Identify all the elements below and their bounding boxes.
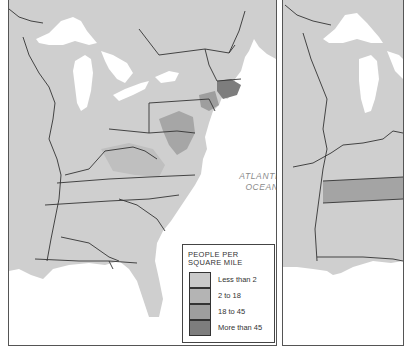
population-density-map-left: ATLANTIC OCEAN PEOPLE PER SQUARE MILE Le…: [8, 0, 277, 346]
legend-item: More than 45: [189, 320, 273, 336]
ocean-label-line2: OCEAN: [227, 182, 277, 193]
legend-title: PEOPLE PER SQUARE MILE: [188, 251, 243, 267]
ocean-label-line1: ATLANTIC: [227, 171, 277, 182]
legend: PEOPLE PER SQUARE MILE Less than 2 2 to …: [182, 244, 275, 343]
density-band-2-18: [323, 177, 403, 203]
legend-label: 18 to 45: [218, 307, 245, 316]
population-density-map-right: [282, 0, 404, 346]
legend-item: 18 to 45: [189, 304, 273, 320]
legend-swatch-more-than-45: [189, 320, 211, 336]
legend-swatch-2-to-18: [189, 288, 211, 304]
legend-item: 2 to 18: [189, 288, 273, 304]
legend-title-line2: SQUARE MILE: [188, 259, 243, 267]
legend-item: Less than 2: [189, 272, 273, 288]
legend-label: 2 to 18: [218, 291, 241, 300]
map-eastern-us-right: [283, 0, 403, 345]
ocean-label: ATLANTIC OCEAN: [227, 171, 277, 193]
legend-label: More than 45: [218, 323, 262, 332]
legend-swatch-18-to-45: [189, 304, 211, 320]
legend-label: Less than 2: [218, 275, 257, 284]
legend-swatch-less-than-2: [189, 272, 211, 288]
